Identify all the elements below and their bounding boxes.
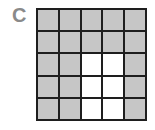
shaded-cell bbox=[124, 76, 146, 98]
shaded-cell bbox=[59, 76, 81, 98]
shaded-cell bbox=[124, 9, 146, 31]
shaded-cell bbox=[59, 53, 81, 75]
shaded-cell bbox=[124, 31, 146, 53]
unshaded-cell bbox=[102, 98, 124, 120]
shaded-cell bbox=[81, 9, 103, 31]
figure-label: C bbox=[12, 5, 26, 25]
shaded-cell bbox=[81, 31, 103, 53]
unshaded-cell bbox=[102, 76, 124, 98]
shaded-cell bbox=[102, 9, 124, 31]
unshaded-cell bbox=[81, 76, 103, 98]
shaded-cell bbox=[124, 98, 146, 120]
shaded-cell bbox=[124, 53, 146, 75]
shaded-cell bbox=[37, 31, 59, 53]
shaded-cell bbox=[59, 98, 81, 120]
shaded-cell bbox=[37, 53, 59, 75]
unshaded-cell bbox=[102, 53, 124, 75]
unshaded-cell bbox=[81, 53, 103, 75]
shaded-cell bbox=[102, 31, 124, 53]
shaded-cell bbox=[37, 98, 59, 120]
shaded-cell bbox=[59, 9, 81, 31]
shaded-cell bbox=[37, 76, 59, 98]
shaded-grid bbox=[36, 8, 147, 121]
shaded-cell bbox=[37, 9, 59, 31]
unshaded-cell bbox=[81, 98, 103, 120]
shaded-cell bbox=[59, 31, 81, 53]
